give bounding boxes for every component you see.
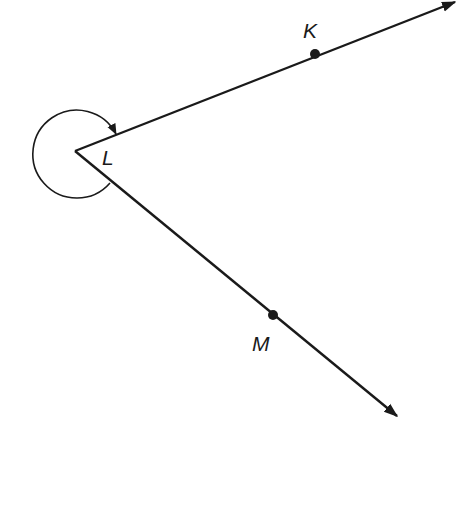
- point-m-label: M: [252, 332, 270, 355]
- point-m-dot: [268, 310, 278, 320]
- ray-lk: [75, 2, 455, 151]
- reflex-angle-diagram: K L M: [0, 0, 468, 508]
- point-k-label: K: [303, 19, 318, 42]
- ray-lm: [75, 151, 397, 416]
- vertex-l-label: L: [102, 146, 114, 169]
- point-k-dot: [310, 49, 320, 59]
